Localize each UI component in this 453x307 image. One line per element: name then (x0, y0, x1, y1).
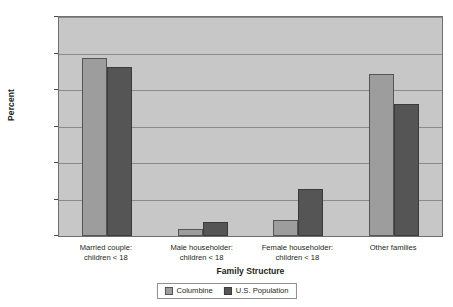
x-tick-label-line: children < 18 (147, 253, 257, 263)
legend-item: Columbine (164, 286, 212, 295)
x-tick-label: Male householder:children < 18 (147, 243, 257, 263)
chart-legend: ColumbineU.S. Population (156, 283, 296, 299)
bar (273, 220, 298, 236)
bar (369, 74, 394, 236)
x-tick-label: Married couple:children < 18 (51, 243, 161, 263)
legend-swatch (224, 287, 232, 295)
gridline (59, 54, 442, 55)
plot-area (58, 16, 443, 237)
legend-swatch (164, 287, 172, 295)
y-tick-mark (54, 199, 58, 200)
gridline (59, 17, 442, 18)
y-tick-mark (54, 16, 58, 17)
x-tick-label-line: Married couple: (51, 243, 161, 253)
bar (107, 67, 132, 236)
bar-chart: Percent 0.0010.0020.0030.0040.0050.0060.… (0, 0, 453, 307)
x-tick-label-line: children < 18 (242, 253, 352, 263)
y-tick-mark (54, 162, 58, 163)
x-tick-label-line: Male householder: (147, 243, 257, 253)
bar (203, 222, 228, 236)
x-tick-label-line: children < 18 (51, 253, 161, 263)
y-tick-mark (54, 89, 58, 90)
x-axis-title: Family Structure (58, 266, 443, 276)
y-tick-mark (54, 53, 58, 54)
legend-item: U.S. Population (224, 286, 289, 295)
y-tick-mark (54, 235, 58, 236)
legend-label: U.S. Population (236, 286, 289, 295)
bar (82, 58, 107, 236)
bar (394, 104, 419, 236)
bar (178, 229, 203, 236)
x-tick-label-line: Other families (338, 243, 448, 253)
x-tick-label-line: Female householder: (242, 243, 352, 253)
y-tick-mark (54, 126, 58, 127)
legend-label: Columbine (176, 286, 212, 295)
y-axis-title: Percent (6, 70, 16, 140)
x-tick-label: Other families (338, 243, 448, 253)
bar (298, 189, 323, 236)
x-tick-label: Female householder:children < 18 (242, 243, 352, 263)
